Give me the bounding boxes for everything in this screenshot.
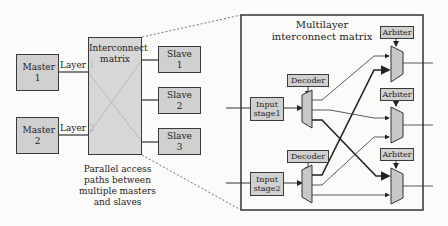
- mux-2: [391, 107, 403, 143]
- input-stage-2-label: Input stage2: [252, 175, 282, 193]
- input-stage-2-box: Input stage2: [250, 172, 284, 196]
- slave-2-box: Slave 2: [158, 87, 201, 114]
- zoom-line-top: [142, 15, 241, 37]
- slave-3-box: Slave 3: [158, 128, 201, 155]
- interconnect-matrix-box: Interconnect matrix: [88, 37, 142, 155]
- arbiter-1-box: Arbiter: [380, 26, 414, 39]
- mux-1: [391, 46, 403, 82]
- demux-2: [302, 165, 312, 203]
- arbiter-3-label: Arbiter: [382, 149, 411, 160]
- master-1-label: Master 1: [23, 62, 53, 84]
- slave-1-box: Slave 1: [158, 46, 201, 73]
- input-stage-1-label: Input stage1: [252, 100, 282, 118]
- arbiter-1-label: Arbiter: [382, 27, 411, 38]
- master-2-box: Master 2: [16, 117, 59, 154]
- slave-1-label: Slave 1: [166, 49, 194, 71]
- decoder-1-label: Decoder: [291, 75, 325, 86]
- right-panel-title: Multilayer interconnect matrix: [262, 19, 382, 43]
- decoder-2-label: Decoder: [291, 151, 325, 162]
- slave-3-label: Slave 3: [166, 131, 194, 153]
- arbiter-2-label: Arbiter: [382, 89, 411, 100]
- decoder-1-box: Decoder: [287, 74, 329, 87]
- interconnect-matrix-label: Interconnect matrix: [89, 43, 141, 65]
- master-1-box: Master 1: [16, 54, 59, 91]
- input-stage-1-box: Input stage1: [250, 97, 284, 121]
- left-caption: Parallel access paths between multiple m…: [70, 164, 165, 208]
- arbiter-2-box: Arbiter: [380, 88, 414, 101]
- arbiter-3-box: Arbiter: [380, 148, 414, 161]
- master-2-label: Master 2: [23, 125, 53, 147]
- mux-3: [391, 168, 403, 204]
- decoder-2-box: Decoder: [287, 150, 329, 163]
- slave-2-label: Slave 2: [166, 90, 194, 112]
- demux-1: [302, 90, 312, 128]
